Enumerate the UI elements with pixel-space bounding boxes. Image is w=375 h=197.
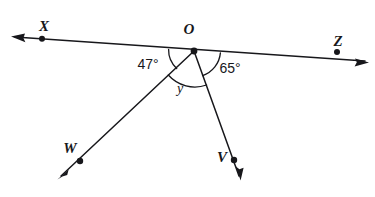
angle-label-voz: 65°	[219, 60, 240, 76]
point-label-v: V	[217, 149, 229, 165]
arc-angle-xow	[169, 49, 177, 68]
arrowhead-w-icon	[57, 170, 68, 180]
point-label-o: O	[184, 21, 195, 37]
arc-angle-wov	[168, 75, 206, 87]
arc-angle-voz	[203, 53, 221, 76]
point-dot-x	[39, 36, 45, 42]
point-label-z: Z	[332, 33, 342, 49]
point-label-x: X	[38, 18, 50, 34]
point-dot-z	[334, 49, 340, 55]
arrowhead-x-icon	[11, 33, 25, 42]
point-dot-w	[77, 158, 83, 164]
ray-ow	[61, 51, 194, 176]
line-xz	[15, 37, 365, 61]
angle-label-xow: 47°	[137, 56, 158, 72]
vertex-dot-o	[191, 48, 198, 55]
point-label-w: W	[63, 140, 78, 156]
angle-diagram: O X Z W V 47° y 65°	[0, 0, 375, 197]
point-dot-v	[231, 157, 237, 163]
angle-label-wov: y	[175, 81, 184, 96]
geometry-canvas: O X Z W V 47° y 65°	[0, 0, 375, 197]
arrowhead-v-icon	[236, 166, 244, 180]
arrowhead-z-icon	[355, 59, 369, 67]
